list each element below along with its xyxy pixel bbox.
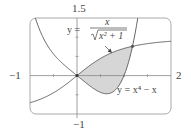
curve1-label-prefix: y =	[67, 24, 80, 35]
x-min-tick-label: −1	[9, 70, 21, 81]
y-max-tick-label: 1.5	[72, 3, 86, 14]
x-max-tick-label: 2	[176, 70, 182, 81]
curve1-label-numerator: x	[105, 16, 109, 27]
graph	[0, 0, 191, 139]
curve1-label-denominator: x² + 1	[99, 30, 123, 41]
y-min-tick-label: −1	[73, 119, 85, 130]
curve2-label: y = x⁴ − x	[117, 84, 157, 95]
intersection-origin	[76, 74, 79, 77]
intersection-point	[131, 45, 134, 48]
